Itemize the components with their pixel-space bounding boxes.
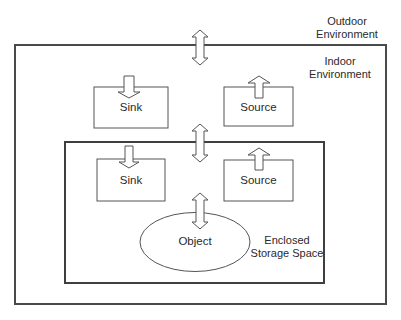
enclosed-sink-label: Sink (97, 174, 165, 186)
indoor-source-label: Source (224, 101, 293, 113)
diagram-canvas (0, 0, 401, 320)
enclosed-storage-label: Enclosed Storage Space (246, 234, 328, 260)
indoor-sink-label: Sink (94, 101, 168, 113)
outdoor-environment-label: Outdoor Environment (307, 15, 387, 41)
double-arrow-icon (192, 193, 208, 229)
label-line: Storage Space (246, 247, 328, 260)
label-line: Environment (307, 28, 387, 41)
label-line: Indoor (300, 55, 380, 68)
label-line: Outdoor (307, 15, 387, 28)
double-arrow-icon (192, 30, 208, 65)
indoor-environment-label: Indoor Environment (300, 55, 380, 81)
object-label: Object (140, 235, 250, 247)
label-line: Environment (300, 68, 380, 81)
label-line: Enclosed (246, 234, 328, 247)
enclosed-source-label: Source (224, 174, 293, 186)
